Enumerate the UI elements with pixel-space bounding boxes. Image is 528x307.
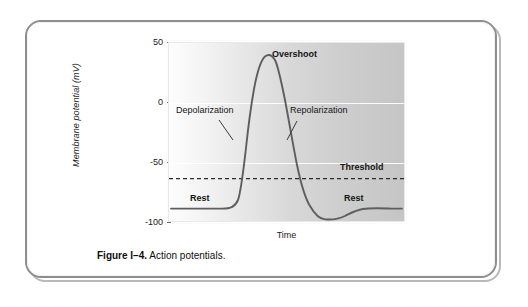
- depolarization-leader-line: [219, 120, 233, 140]
- plot-area: Overshoot Depolarization Repolarization …: [168, 42, 405, 222]
- y-tick-label-neg100: -100: [145, 217, 163, 227]
- figure-caption-label: Figure I–4.: [97, 250, 147, 261]
- y-tick-label-50: 50: [153, 37, 163, 47]
- y-axis-ticks: 50 0 -50 -100: [127, 22, 163, 222]
- figure-page: Membrane potential (mV) 50 0 -50 -100: [0, 0, 528, 307]
- y-tick-label-0: 0: [158, 97, 163, 107]
- y-tick-mark-neg100: [166, 222, 171, 223]
- annotation-overshoot: Overshoot: [272, 49, 317, 59]
- annotation-repolarization: Repolarization: [290, 105, 348, 115]
- figure-container: Membrane potential (mV) 50 0 -50 -100: [27, 22, 495, 276]
- annotation-rest-right: Rest: [344, 193, 364, 203]
- annotation-depolarization: Depolarization: [176, 105, 234, 115]
- figure-caption: Figure I–4. Action potentials.: [97, 250, 225, 261]
- annotation-threshold: Threshold: [340, 162, 384, 172]
- y-tick-label-neg50: -50: [150, 157, 163, 167]
- figure-caption-text: Action potentials.: [149, 250, 225, 261]
- x-axis-title: Time: [168, 230, 405, 240]
- annotation-rest-left: Rest: [190, 193, 210, 203]
- y-axis-title: Membrane potential (mV): [71, 30, 81, 200]
